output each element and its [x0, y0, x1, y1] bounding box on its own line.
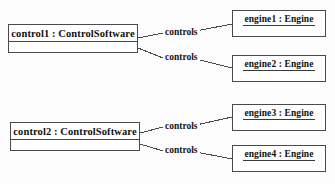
association-line-control2-engine4-b — [196, 152, 232, 159]
association-label-control2-engine4: controls — [163, 145, 200, 156]
object-name-compartment: control1 : ControlSoftware — [9, 25, 137, 42]
uml-object-diagram-canvas: control1 : ControlSoftware control2 : Co… — [0, 0, 335, 184]
object-box-engine2[interactable]: engine2 : Engine — [232, 55, 326, 82]
object-attribute-compartment — [233, 72, 325, 81]
object-box-control2[interactable]: control2 : ControlSoftware — [10, 122, 140, 151]
association-line-control1-engine1-b — [196, 24, 232, 31]
object-box-engine3[interactable]: engine3 : Engine — [232, 104, 326, 131]
association-line-control2-engine3 — [140, 127, 163, 133]
object-label-engine2: engine2 : Engine — [243, 58, 314, 71]
object-name-compartment: engine2 : Engine — [233, 56, 325, 72]
object-box-engine4[interactable]: engine4 : Engine — [232, 145, 326, 172]
association-line-control2-engine4 — [140, 144, 163, 151]
object-label-control1: control1 : ControlSoftware — [11, 28, 134, 39]
association-line-control1-engine2 — [138, 48, 163, 58]
object-attribute-compartment — [233, 162, 325, 171]
object-name-compartment: engine1 : Engine — [233, 11, 325, 27]
object-name-compartment: engine4 : Engine — [233, 146, 325, 162]
association-label-control1-engine2: controls — [163, 52, 200, 63]
association-label-control2-engine3: controls — [163, 121, 200, 132]
object-attribute-compartment — [11, 140, 139, 150]
object-label-engine1: engine1 : Engine — [243, 13, 314, 26]
object-box-engine1[interactable]: engine1 : Engine — [232, 10, 326, 37]
object-name-compartment: control2 : ControlSoftware — [11, 123, 139, 140]
object-box-control1[interactable]: control1 : ControlSoftware — [8, 24, 138, 53]
association-line-control2-engine3-b — [196, 117, 232, 125]
object-label-control2: control2 : ControlSoftware — [13, 126, 136, 137]
association-label-control1-engine1: controls — [163, 27, 200, 38]
object-attribute-compartment — [9, 42, 137, 52]
association-line-control1-engine1 — [138, 33, 163, 38]
object-attribute-compartment — [233, 121, 325, 130]
object-attribute-compartment — [233, 27, 325, 36]
object-label-engine4: engine4 : Engine — [243, 148, 314, 161]
association-line-control1-engine2-b — [196, 59, 232, 68]
object-label-engine3: engine3 : Engine — [243, 107, 314, 120]
object-name-compartment: engine3 : Engine — [233, 105, 325, 121]
